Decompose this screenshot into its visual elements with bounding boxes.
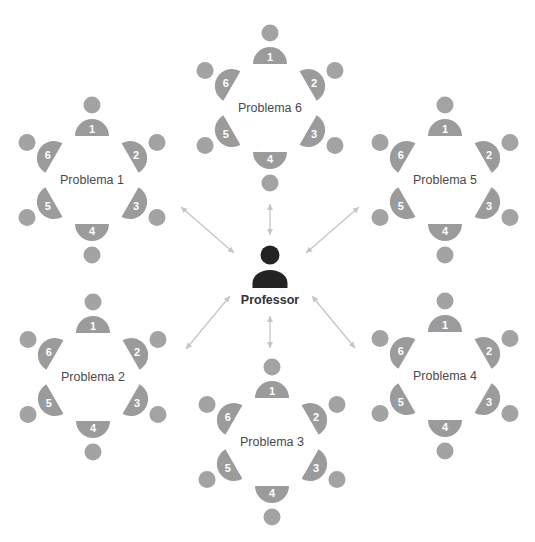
student-icon xyxy=(326,137,343,154)
student-icon xyxy=(326,62,343,79)
student-icon xyxy=(262,25,279,42)
student-icon xyxy=(501,405,518,422)
arrow-to-problema-6 xyxy=(267,204,273,235)
arrowhead-icon xyxy=(267,342,273,348)
seat-number: 2 xyxy=(311,77,317,89)
seat-number: 5 xyxy=(225,462,231,474)
student-icon xyxy=(437,293,454,310)
table-label: Problema 4 xyxy=(413,369,477,383)
student-icon xyxy=(437,247,454,264)
seat-number: 1 xyxy=(267,51,273,63)
seat-number: 2 xyxy=(313,411,319,423)
table-label: Problema 1 xyxy=(60,173,124,187)
seat-number: 6 xyxy=(223,77,229,89)
student-icon xyxy=(149,406,166,423)
professor-label: Professor xyxy=(241,293,299,307)
student-icon xyxy=(85,444,102,461)
student-icon xyxy=(264,509,281,526)
seat-number: 4 xyxy=(442,421,449,433)
student-icon xyxy=(372,134,389,151)
student-icon xyxy=(328,471,345,488)
seat-number: 5 xyxy=(398,396,404,408)
student-icon xyxy=(264,359,281,376)
table-label: Problema 5 xyxy=(413,173,477,187)
student-icon xyxy=(20,331,37,348)
student-icon xyxy=(84,97,101,114)
student-icon xyxy=(437,443,454,460)
student-icon xyxy=(197,137,214,154)
student-icon xyxy=(19,134,36,151)
student-icon xyxy=(437,97,454,114)
student-icon xyxy=(199,396,216,413)
professor-body-icon xyxy=(253,270,288,288)
arrow-to-problema-1 xyxy=(181,207,234,253)
seat-number: 1 xyxy=(442,319,448,331)
seat-number: 4 xyxy=(267,153,274,165)
table-label: Problema 3 xyxy=(240,435,304,449)
seat-number: 6 xyxy=(398,345,404,357)
seat-number: 5 xyxy=(45,200,51,212)
seat-number: 3 xyxy=(486,200,492,212)
seat-number: 1 xyxy=(442,123,448,135)
student-icon xyxy=(85,294,102,311)
arrowhead-icon xyxy=(267,204,273,210)
student-icon xyxy=(372,330,389,347)
student-icon xyxy=(501,134,518,151)
arrow-to-problema-4 xyxy=(312,296,355,348)
seat-number: 6 xyxy=(398,149,404,161)
seat-number: 2 xyxy=(486,345,492,357)
seat-number: 2 xyxy=(134,346,140,358)
table-t1: 123456Problema 1 xyxy=(19,97,166,264)
seat-number: 5 xyxy=(46,397,52,409)
seat-number: 6 xyxy=(45,149,51,161)
seat-number: 3 xyxy=(313,462,319,474)
student-icon xyxy=(501,209,518,226)
student-icon xyxy=(328,396,345,413)
seat-number: 3 xyxy=(486,396,492,408)
table-label: Problema 2 xyxy=(61,370,125,384)
student-icon xyxy=(84,247,101,264)
student-icon xyxy=(149,331,166,348)
table-t6: 123456Problema 6 xyxy=(197,25,344,192)
classroom-diagram: 123456Problema 1123456Problema 2123456Pr… xyxy=(0,0,535,542)
arrowhead-icon xyxy=(267,229,273,235)
seat-number: 4 xyxy=(442,225,449,237)
table-t4: 123456Problema 4 xyxy=(372,293,519,460)
student-icon xyxy=(199,471,216,488)
seat-number: 6 xyxy=(46,346,52,358)
seat-number: 2 xyxy=(133,149,139,161)
seat-number: 3 xyxy=(311,128,317,140)
student-icon xyxy=(372,405,389,422)
table-t3: 123456Problema 3 xyxy=(199,359,346,526)
table-label: Problema 6 xyxy=(238,101,302,115)
seat-number: 5 xyxy=(223,128,229,140)
seat-number: 1 xyxy=(90,320,96,332)
seat-number: 3 xyxy=(133,200,139,212)
seat-number: 4 xyxy=(90,422,97,434)
student-icon xyxy=(148,134,165,151)
student-icon xyxy=(262,175,279,192)
professor: Professor xyxy=(241,246,299,308)
professor-head-icon xyxy=(261,246,280,265)
arrow-to-problema-5 xyxy=(306,207,359,253)
arrow-to-problema-2 xyxy=(186,296,230,349)
seat-number: 3 xyxy=(134,397,140,409)
seat-number: 6 xyxy=(225,411,231,423)
student-icon xyxy=(501,330,518,347)
table-t2: 123456Problema 2 xyxy=(20,294,167,461)
student-icon xyxy=(372,209,389,226)
seat-number: 4 xyxy=(89,225,96,237)
student-icon xyxy=(197,62,214,79)
seat-number: 4 xyxy=(269,487,276,499)
table-t5: 123456Problema 5 xyxy=(372,97,519,264)
seat-number: 5 xyxy=(398,200,404,212)
arrow-to-problema-3 xyxy=(267,316,273,348)
student-icon xyxy=(20,406,37,423)
seat-number: 1 xyxy=(89,123,95,135)
student-icon xyxy=(19,209,36,226)
arrowhead-icon xyxy=(267,316,273,322)
seat-number: 2 xyxy=(486,149,492,161)
student-icon xyxy=(148,209,165,226)
seat-number: 1 xyxy=(269,385,275,397)
